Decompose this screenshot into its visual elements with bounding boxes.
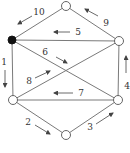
step-labels: 12345678910 xyxy=(1,7,130,132)
graph-diagram: 12345678910 xyxy=(0,0,130,153)
direction-arrow-icon xyxy=(85,9,98,16)
direction-arrow-icon xyxy=(35,125,50,134)
step-label: 4 xyxy=(124,81,130,91)
step-label: 8 xyxy=(26,76,32,86)
direction-arrow-icon xyxy=(96,113,113,124)
start-node-upper-left xyxy=(8,36,16,44)
node-bottom xyxy=(62,131,71,140)
edge-lower-left-bottom xyxy=(13,100,66,135)
step-label: 9 xyxy=(103,18,109,28)
edge-upper-left-lower-right xyxy=(12,40,118,100)
node-lower-left xyxy=(9,96,18,105)
edge-upper-left-lower-left xyxy=(12,40,13,100)
graph-canvas: 12345678910 xyxy=(0,0,130,153)
step-label: 1 xyxy=(1,57,7,67)
step-label: 3 xyxy=(87,122,93,132)
direction-arrow-icon xyxy=(56,57,67,63)
step-label: 2 xyxy=(25,117,31,127)
edge-lower-right-upper-right xyxy=(118,41,119,100)
node-lower-right xyxy=(114,96,123,105)
edge-upper-right-top xyxy=(66,6,119,41)
step-label: 5 xyxy=(75,27,81,37)
direction-arrow-icon xyxy=(18,16,32,24)
node-upper-right xyxy=(115,37,124,46)
step-label: 6 xyxy=(42,47,48,57)
step-label: 7 xyxy=(78,88,84,98)
edge-upper-right-upper-left xyxy=(12,40,119,41)
direction-arrow-icon xyxy=(35,71,50,78)
step-label: 10 xyxy=(33,7,45,17)
node-top xyxy=(62,2,71,11)
